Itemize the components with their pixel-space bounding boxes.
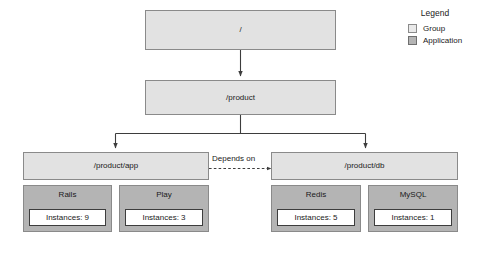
app-node-mysql-instances: Instances: 1 bbox=[374, 209, 452, 226]
app-node-play-instances: Instances: 3 bbox=[125, 209, 203, 226]
architecture-diagram: / /product /product/app /product/db Depe… bbox=[0, 0, 493, 255]
legend-swatch-group-icon bbox=[408, 24, 417, 33]
node-root[interactable]: / bbox=[145, 10, 336, 50]
app-node-mysql-title: MySQL bbox=[369, 191, 457, 199]
depends-on-label: Depends on bbox=[212, 155, 255, 163]
node-product[interactable]: /product bbox=[145, 80, 336, 115]
app-node-mysql[interactable]: MySQL Instances: 1 bbox=[368, 185, 458, 232]
node-product-app[interactable]: /product/app bbox=[23, 152, 209, 180]
legend-swatch-application-icon bbox=[408, 36, 417, 45]
node-product-label: /product bbox=[226, 94, 255, 102]
app-node-play[interactable]: Play Instances: 3 bbox=[119, 185, 209, 232]
legend: Legend Group Application bbox=[398, 8, 490, 48]
app-node-redis-instances: Instances: 5 bbox=[277, 209, 355, 226]
legend-item-group-label: Group bbox=[423, 25, 445, 33]
app-node-rails-title: Rails bbox=[24, 191, 111, 199]
legend-item-application-label: Application bbox=[423, 37, 462, 45]
node-product-db-label: /product/db bbox=[344, 162, 384, 170]
legend-title: Legend bbox=[398, 8, 490, 18]
app-node-play-title: Play bbox=[120, 191, 208, 199]
app-node-rails[interactable]: Rails Instances: 9 bbox=[23, 185, 112, 232]
node-product-app-label: /product/app bbox=[94, 162, 138, 170]
node-product-db[interactable]: /product/db bbox=[271, 152, 458, 180]
legend-item-group: Group bbox=[398, 24, 490, 33]
app-node-rails-instances: Instances: 9 bbox=[29, 209, 106, 226]
app-node-redis[interactable]: Redis Instances: 5 bbox=[271, 185, 361, 232]
app-node-redis-title: Redis bbox=[272, 191, 360, 199]
node-root-label: / bbox=[239, 26, 241, 34]
legend-item-application: Application bbox=[398, 36, 490, 45]
